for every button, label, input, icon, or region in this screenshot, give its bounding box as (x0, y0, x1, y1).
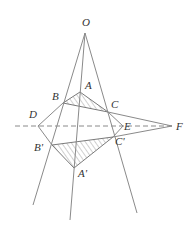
triangle-abc (63, 92, 108, 112)
label-a: A (84, 79, 92, 91)
segment-c-f (108, 112, 172, 126)
label-b1: B' (34, 141, 44, 153)
label-c1: C' (115, 135, 125, 147)
label-f: F (175, 120, 183, 132)
label-e: E (123, 120, 131, 132)
label-c: C (111, 98, 119, 110)
segment-d-b (38, 103, 63, 126)
label-o: O (82, 16, 90, 28)
label-d: D (28, 108, 37, 120)
perspective-triangles-diagram: O A B C D E F B' C' A' (0, 0, 194, 233)
label-b: B (52, 90, 59, 102)
ray-o-b-b1 (33, 33, 85, 205)
label-a1: A' (77, 167, 88, 179)
triangle-a1b1c1 (52, 137, 113, 168)
